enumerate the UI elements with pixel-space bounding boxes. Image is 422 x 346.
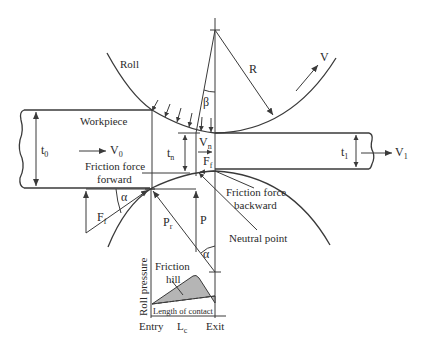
chart-ylabel: Roll pressure xyxy=(137,258,149,316)
tick-lc: Lc xyxy=(177,320,188,335)
t0-label: t0 xyxy=(41,143,48,159)
lower-roll-arc xyxy=(108,171,330,247)
radius-label: R xyxy=(249,62,257,76)
chart-title-line1: Friction xyxy=(155,260,190,272)
v0-label: V0 xyxy=(110,143,123,159)
friction-backward-label-line1: Friction force xyxy=(226,186,286,198)
vn-label: Vn xyxy=(199,135,212,151)
neutral-point-label: Neutral point xyxy=(229,232,287,244)
p-label: P xyxy=(200,213,207,227)
friction-forward-label-line2: forward xyxy=(97,173,132,185)
workpiece-label: Workpiece xyxy=(80,115,127,127)
chart-xlabel: Length of contact xyxy=(153,306,214,316)
radius-arrow xyxy=(215,30,273,115)
upper-roll-arc xyxy=(107,53,336,133)
v1-label: V1 xyxy=(395,145,408,161)
ff-center-label: Ff xyxy=(203,154,213,170)
t1-label: t1 xyxy=(341,145,348,161)
chart-title-line2: hill xyxy=(166,273,181,285)
tn-label: tn xyxy=(167,146,174,162)
roll-label: Roll xyxy=(120,58,139,70)
beta-line xyxy=(196,30,215,133)
tick-entry: Entry xyxy=(139,320,164,332)
roll-velocity-label: V xyxy=(320,50,329,64)
ff-left-label: Ff xyxy=(97,210,107,226)
rolling-diagram: Roll β R V Workpiece t0 V0 Friction forc… xyxy=(0,0,422,346)
tn-dimension xyxy=(178,133,200,171)
friction-forward-label-line1: Friction force xyxy=(85,160,145,172)
alpha-upper-label: α xyxy=(121,190,128,204)
tick-exit: Exit xyxy=(206,320,224,332)
beta-label: β xyxy=(203,95,209,109)
pr-label: Pr xyxy=(163,215,173,231)
workpiece-exit xyxy=(215,133,374,169)
friction-backward-label-line2: backward xyxy=(234,199,277,211)
alpha-lower-label: α xyxy=(203,247,210,261)
beta-arc xyxy=(204,90,215,92)
